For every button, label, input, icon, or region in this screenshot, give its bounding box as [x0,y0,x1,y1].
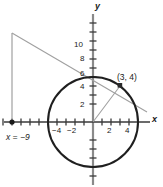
x-tick-label-2: 2 [107,127,111,135]
y-tick-label-8: 8 [80,55,84,63]
y-tick-label-10: 10 [74,41,83,49]
radius-line [93,86,120,122]
y-tick-label-4: 4 [80,83,84,91]
point-label-3-4: (3, 4) [117,73,137,82]
x-axis-label: x [152,115,157,124]
y-tick-label-6: 6 [80,70,84,78]
geometry-figure: y x 10 8 6 4 2 −4 −2 2 4 (3, 4) x = −9 [0,0,163,187]
x-tick-label-4: 4 [125,127,129,135]
x-tick-label-neg4: −4 [52,127,61,135]
x-intercept-point [9,119,14,124]
y-tick-label-2: 2 [80,101,84,109]
y-axis-label: y [95,2,100,11]
tangency-point [118,83,123,88]
figure-canvas [0,0,163,187]
x-tick-label-neg2: −2 [67,127,76,135]
vertical-line-label: x = −9 [6,133,30,142]
